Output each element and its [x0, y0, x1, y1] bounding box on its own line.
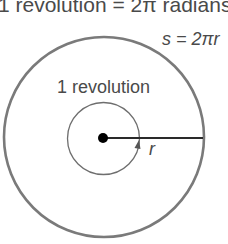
- arc-length-label: s = 2πr: [162, 29, 221, 49]
- diagram-title: 1 revolution = 2π radians: [0, 0, 228, 16]
- radius-label: r: [149, 139, 156, 159]
- inner-revolution-label: 1 revolution: [57, 77, 150, 97]
- revolution-diagram: 1 revolution = 2π radians s = 2πr 1 revo…: [0, 0, 228, 244]
- arc-length-text: s = 2πr: [162, 29, 221, 49]
- center-dot: [98, 133, 108, 143]
